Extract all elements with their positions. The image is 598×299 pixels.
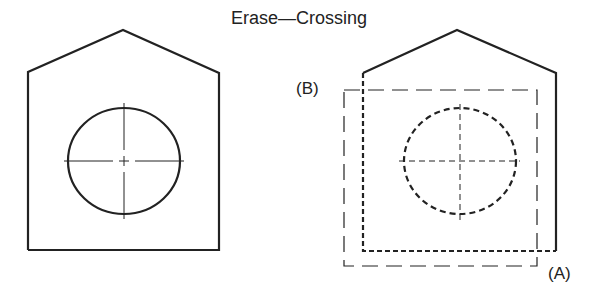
crossing-selection-window[interactable] <box>344 90 537 266</box>
label-b: (B) <box>296 79 319 99</box>
left-figure <box>28 30 219 250</box>
diagram-canvas <box>0 0 598 299</box>
right-centerlines <box>399 104 520 220</box>
left-centerlines <box>64 103 184 219</box>
right-house-selected-walls <box>363 73 556 251</box>
label-a: (A) <box>548 264 571 284</box>
right-figure <box>344 30 556 266</box>
